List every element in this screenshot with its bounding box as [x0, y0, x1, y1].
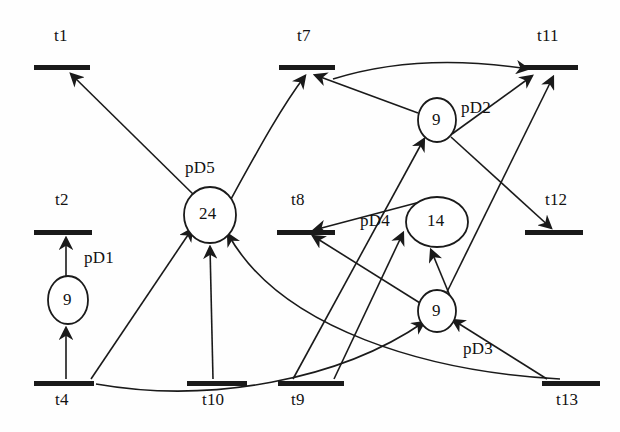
- places-layer: [0, 0, 620, 432]
- place-tokens-pD1: 9: [63, 290, 72, 310]
- place-tokens-pD3: 9: [432, 301, 441, 321]
- petri-net-diagram: t1 t2 t4 t7 t8 t9 t10 t11 t12 t13 9 pD1 …: [0, 0, 620, 432]
- place-label-pD4: pD4: [360, 211, 390, 231]
- place-tokens-pD2: 9: [432, 110, 441, 130]
- place-tokens-pD4: 14: [427, 211, 444, 231]
- place-label-pD5: pD5: [185, 158, 215, 178]
- place-tokens-pD5: 24: [199, 204, 216, 224]
- place-label-pD2: pD2: [461, 98, 491, 118]
- place-label-pD1: pD1: [84, 248, 114, 268]
- place-label-pD3: pD3: [463, 339, 493, 359]
